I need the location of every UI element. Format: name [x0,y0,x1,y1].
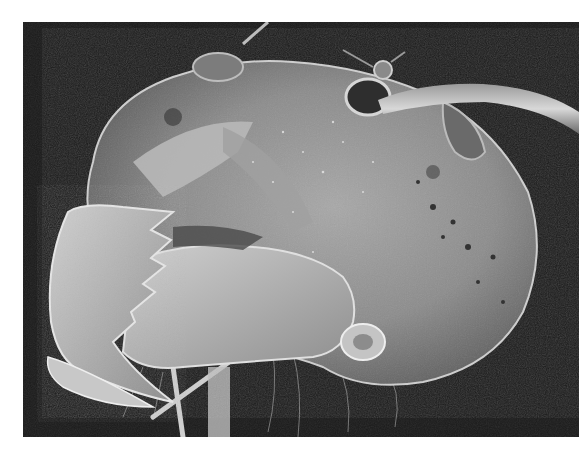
sem-micrograph [23,22,579,437]
ant-head-illustration [23,22,579,437]
